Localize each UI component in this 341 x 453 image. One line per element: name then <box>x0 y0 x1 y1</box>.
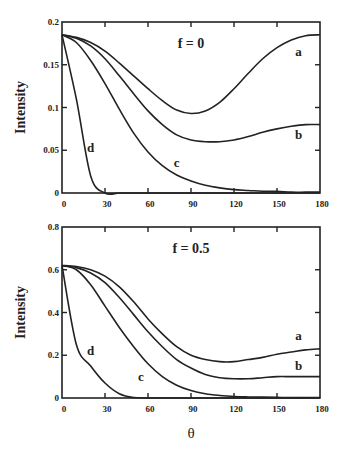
x-tick-label: 90 <box>189 199 199 209</box>
plot-panel-1: 030609012015018000.050.10.150.2f = 0abcd… <box>13 17 329 209</box>
y-tick-label: 0.2 <box>48 350 60 360</box>
x-tick-label: 90 <box>189 404 199 414</box>
x-tick-label: 150 <box>272 404 286 414</box>
curve-b <box>62 265 320 378</box>
x-tick-label: 60 <box>146 199 156 209</box>
x-tick-label: 0 <box>62 199 67 209</box>
x-tick-label: 30 <box>103 404 113 414</box>
curve-label-c: c <box>174 155 180 170</box>
curve-label-c: c <box>138 369 144 384</box>
y-tick-label: 0.1 <box>48 103 60 113</box>
x-tick-label: 180 <box>315 199 329 209</box>
curve-d <box>62 265 320 398</box>
y-tick-label: 0.8 <box>48 222 60 232</box>
curve-d <box>62 35 320 194</box>
curve-label-b: b <box>295 358 302 373</box>
y-tick-label: 0.4 <box>48 308 60 318</box>
figure: 030609012015018000.050.10.150.2f = 0abcd… <box>0 0 341 453</box>
x-axis-label: θ <box>187 425 194 441</box>
curve-label-d: d <box>87 343 95 358</box>
x-tick-label: 60 <box>146 404 156 414</box>
y-tick-label: 0.05 <box>43 145 59 155</box>
y-tick-label: 0 <box>55 188 60 198</box>
y-tick-label: 0.2 <box>48 17 60 27</box>
panel-title: f = 0 <box>178 36 205 51</box>
y-tick-label: 0.15 <box>43 60 59 70</box>
x-tick-label: 0 <box>62 404 67 414</box>
panel-title: f = 0.5 <box>172 241 209 256</box>
curve-label-d: d <box>87 140 95 155</box>
curve-label-a: a <box>295 44 302 59</box>
curve-label-b: b <box>295 127 302 142</box>
y-axis-label: Intensity <box>13 81 28 134</box>
curve-label-a: a <box>295 328 302 343</box>
y-tick-label: 0.6 <box>48 265 60 275</box>
x-tick-label: 120 <box>229 199 243 209</box>
x-tick-label: 150 <box>272 199 286 209</box>
y-tick-label: 0 <box>55 393 60 403</box>
plot-panel-2: 030609012015018000.20.40.60.8f = 0.5abcd… <box>13 222 329 441</box>
x-tick-label: 30 <box>103 199 113 209</box>
y-axis-label: Intensity <box>13 286 28 339</box>
curve-b <box>62 35 320 142</box>
x-tick-label: 120 <box>229 404 243 414</box>
x-tick-label: 180 <box>315 404 329 414</box>
